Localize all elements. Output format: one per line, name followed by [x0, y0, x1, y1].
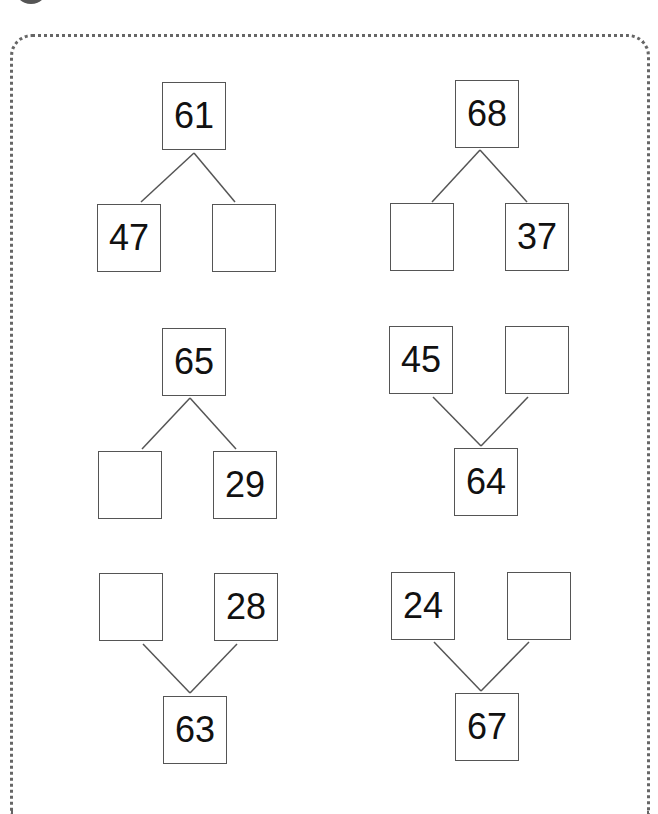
part-box-right[interactable]: 28: [214, 573, 278, 641]
whole-box: 64: [454, 448, 518, 516]
whole-box: 67: [455, 693, 519, 761]
part-box-right[interactable]: [505, 326, 569, 394]
part-box-left[interactable]: [98, 451, 162, 519]
part-box-left[interactable]: 24: [391, 572, 455, 640]
part-box-left[interactable]: 47: [97, 204, 161, 272]
part-box-right[interactable]: 37: [505, 203, 569, 271]
whole-box: 65: [162, 328, 226, 396]
part-box-left[interactable]: [390, 203, 454, 271]
part-box-left[interactable]: 45: [389, 326, 453, 394]
part-box-right[interactable]: 29: [213, 451, 277, 519]
part-box-right[interactable]: [507, 572, 571, 640]
part-box-right[interactable]: [212, 204, 276, 272]
whole-box: 68: [455, 80, 519, 148]
whole-box: 63: [163, 696, 227, 764]
whole-box: 61: [162, 82, 226, 150]
part-box-left[interactable]: [99, 573, 163, 641]
